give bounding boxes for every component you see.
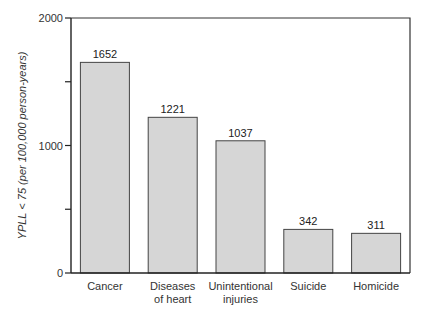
bar-chart: 1652Cancer1221Diseasesof heart1037Uninte… [0, 0, 429, 319]
bar [80, 62, 129, 273]
category-label: Cancer [87, 280, 123, 292]
value-label: 1221 [160, 103, 184, 115]
bar [352, 233, 401, 273]
value-label: 1037 [228, 127, 252, 139]
category-label: Unintentional [208, 280, 272, 292]
bar [148, 117, 197, 273]
bar [284, 229, 333, 273]
value-label: 1652 [93, 48, 117, 60]
y-tick-label: 1000 [39, 140, 63, 152]
y-tick-label: 2000 [39, 12, 63, 24]
category-label: Homicide [353, 280, 399, 292]
bar [216, 141, 265, 273]
category-label: injuries [223, 293, 258, 305]
y-axis-label: YPLL < 75 (per 100,000 person-years) [16, 51, 28, 239]
value-label: 311 [367, 219, 385, 231]
plot-area: 1652Cancer1221Diseasesof heart1037Uninte… [16, 12, 410, 305]
category-label: Diseases [150, 280, 196, 292]
value-label: 342 [299, 215, 317, 227]
y-tick-label: 0 [57, 267, 63, 279]
category-label: of heart [154, 293, 191, 305]
category-label: Suicide [290, 280, 326, 292]
